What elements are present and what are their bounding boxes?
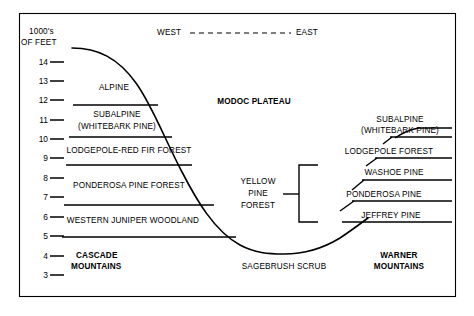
zone-label-yellow-line3: FOREST [241, 201, 275, 211]
vegetation-zone-cross-section-diagram: 1000's OF FEET 14 13 12 11 10 9 8 7 6 5 … [0, 0, 474, 316]
axis-label-9: 9 [32, 153, 48, 163]
axis-label-8: 8 [32, 173, 48, 183]
zone-label-whitebark-pine-east: (WHITEBARK PINE) [361, 126, 439, 136]
zone-label-subalpine-west: SUBALPINE [93, 110, 140, 120]
zone-label-washoe-pine: WASHOE PINE [364, 168, 423, 178]
zone-label-yellow-line2: PINE [248, 189, 268, 199]
axis-label-6: 6 [32, 212, 48, 222]
zone-label-lodgepole-red-fir-forest: LODGEPOLE-RED FIR FOREST [66, 146, 191, 156]
zone-label-yellow-line1: YELLOW [240, 177, 275, 187]
axis-caption-line1: 1000's [29, 27, 54, 37]
zone-label-ponderosa-pine: PONDEROSA PINE [346, 190, 421, 200]
zone-label-ponderosa-pine-forest: PONDEROSA PINE FOREST [73, 181, 185, 191]
axis-label-5: 5 [32, 231, 48, 241]
axis-label-12: 12 [32, 95, 48, 105]
axis-label-11: 11 [32, 115, 48, 125]
zone-label-subalpine-east: SUBALPINE [376, 115, 423, 125]
axis-label-3: 3 [32, 270, 48, 280]
orientation-label-east: EAST [296, 28, 318, 38]
region-label-cascade-line1: CASCADE [76, 251, 118, 261]
axis-label-7: 7 [32, 192, 48, 202]
axis-label-14: 14 [32, 57, 48, 67]
axis-label-13: 13 [32, 76, 48, 86]
region-label-cascade-line2: MOUNTAINS [71, 262, 121, 272]
axis-label-10: 10 [32, 134, 48, 144]
zone-label-whitebark-pine-west: (WHITEBARK PINE) [78, 122, 156, 132]
zone-label-western-juniper-woodland: WESTERN JUNIPER WOODLAND [67, 216, 199, 226]
orientation-label-west: WEST [157, 28, 181, 38]
axis-caption-line2: OF FEET [21, 38, 57, 48]
axis-label-4: 4 [32, 251, 48, 261]
zone-label-sagebrush-scrub: SAGEBRUSH SCRUB [242, 262, 327, 272]
zone-label-lodgepole-forest: LODGEPOLE FOREST [345, 147, 433, 157]
region-label-warner-line2: MOUNTAINS [374, 262, 424, 272]
region-label-warner-line1: WARNER [380, 251, 417, 261]
region-label-modoc-plateau: MODOC PLATEAU [217, 97, 291, 107]
zone-label-jeffrey-pine: JEFFREY PINE [361, 211, 420, 221]
zone-label-alpine: ALPINE [99, 83, 129, 93]
